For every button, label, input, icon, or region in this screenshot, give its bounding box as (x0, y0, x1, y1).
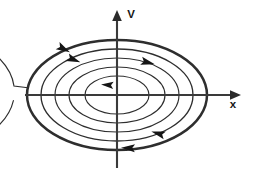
arrow-upper-right (140, 57, 155, 68)
arrow-lower-right (150, 128, 166, 140)
phase-plane-canvas: V x (0, 0, 254, 177)
arrow-inner-center-left (101, 81, 114, 89)
v-axis-arrowhead (112, 10, 122, 21)
v-axis-label: V (127, 8, 135, 20)
x-axis-label: x (230, 98, 237, 110)
phase-plane-figure: V x (0, 0, 254, 177)
orbit-group (0, 28, 207, 156)
axis-group (25, 10, 241, 168)
orbit-6-outer (0, 28, 28, 156)
